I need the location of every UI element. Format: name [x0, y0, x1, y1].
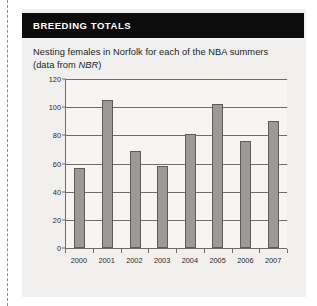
- x-axis-label-2007: 2007: [259, 256, 287, 265]
- y-tick-label: 20: [53, 215, 61, 224]
- plot-area-wrapper: 020406080100120: [65, 79, 287, 249]
- y-tick-label: 120: [49, 75, 61, 84]
- bar-2007[interactable]: [268, 121, 279, 248]
- bar-slot: [66, 79, 94, 248]
- y-tick-label: 40: [53, 187, 61, 196]
- bar-slot: [204, 79, 232, 248]
- bar-slot: [149, 79, 177, 248]
- x-tick-mark: [287, 249, 288, 253]
- bar-slot: [121, 79, 149, 248]
- x-axis-label-2005: 2005: [204, 256, 232, 265]
- bar-2003[interactable]: [157, 166, 168, 248]
- x-axis-labels: 20002001200220032004200520062007: [65, 256, 287, 265]
- bar-2000[interactable]: [74, 168, 85, 248]
- x-axis-label-2000: 2000: [65, 256, 93, 265]
- panel-header-bar: BREEDING TOTALS: [22, 13, 304, 38]
- x-axis-label-2001: 2001: [93, 256, 121, 265]
- x-tick-mark: [65, 249, 66, 253]
- x-tick-mark: [121, 249, 122, 253]
- subtitle-line-2-suffix: ): [98, 60, 101, 70]
- x-axis-label-2004: 2004: [176, 256, 204, 265]
- y-tick-label: 100: [49, 103, 61, 112]
- x-axis-label-2006: 2006: [232, 256, 260, 265]
- bar-2002[interactable]: [130, 151, 141, 248]
- x-tick-mark: [232, 249, 233, 253]
- y-tick-label: 80: [53, 131, 61, 140]
- y-tick-label: 60: [53, 159, 61, 168]
- x-axis-label-2002: 2002: [121, 256, 149, 265]
- bar-slot: [232, 79, 260, 248]
- breeding-totals-panel: BREEDING TOTALS Nesting females in Norfo…: [22, 9, 306, 297]
- x-axis: 20002001200220032004200520062007: [65, 249, 287, 275]
- bar-2005[interactable]: [212, 104, 223, 248]
- bar-slot: [177, 79, 205, 248]
- bar-slot: [259, 79, 287, 248]
- x-tick-mark: [93, 249, 94, 253]
- subtitle-line-1: Nesting females in Norfolk for each of t…: [33, 47, 268, 57]
- x-tick-mark: [176, 249, 177, 253]
- breeding-totals-bar-chart: 020406080100120 200020012002200320042005…: [33, 75, 295, 275]
- x-tick-mark: [204, 249, 205, 253]
- subtitle-source-abbreviation: NBR: [79, 60, 99, 70]
- page-trim-dashed-line: [7, 0, 8, 306]
- subtitle-line-2-prefix: (data from: [33, 60, 79, 70]
- panel-subtitle: Nesting females in Norfolk for each of t…: [33, 46, 295, 71]
- x-axis-label-2003: 2003: [148, 256, 176, 265]
- plot-area: 020406080100120: [65, 79, 287, 249]
- panel-title: BREEDING TOTALS: [33, 20, 131, 31]
- bar-2006[interactable]: [240, 141, 251, 248]
- bar-2001[interactable]: [102, 100, 113, 248]
- bars-group: [66, 79, 287, 248]
- x-tick-mark: [148, 249, 149, 253]
- bar-2004[interactable]: [185, 134, 196, 248]
- x-tick-mark: [259, 249, 260, 253]
- bar-slot: [94, 79, 122, 248]
- y-tick-label: 0: [57, 244, 61, 253]
